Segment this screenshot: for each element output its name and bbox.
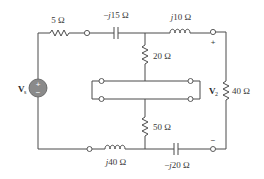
resistor-40-label: 40 Ω [232, 86, 250, 96]
top-branch: 5 Ω −j15 Ω j10 Ω [38, 10, 226, 39]
capacitor-j20-label: −j20 Ω [164, 160, 190, 170]
resistor-20-ohm-icon [142, 45, 148, 64]
terminal-node [99, 79, 104, 84]
terminal-node [211, 147, 216, 152]
inductor-j40-label: j40 Ω [105, 157, 127, 167]
v2-minus-sign: − [211, 136, 216, 145]
capacitor-j20-icon [174, 143, 178, 155]
terminal-node [210, 29, 215, 34]
inductor-j10-label: j10 Ω [170, 12, 192, 22]
terminal-node [188, 97, 193, 102]
resistor-50-ohm-icon [142, 117, 148, 136]
terminal-node [84, 30, 89, 35]
source-label-subscript: s [24, 89, 27, 95]
terminal-node [87, 147, 92, 152]
circuit-diagram: + − V s 5 Ω −j15 Ω j10 Ω [0, 0, 264, 179]
inductor-j40-icon [105, 145, 125, 149]
capacitor-j15-label: −j15 Ω [103, 10, 129, 20]
terminal-box [92, 79, 200, 102]
bottom-branch: j40 Ω −j20 Ω [38, 143, 226, 170]
terminal-node [99, 97, 104, 102]
resistor-40-ohm-icon [223, 81, 229, 100]
right-branch: 40 Ω + V 2 − [209, 32, 250, 149]
center-branch: 20 Ω 50 Ω [92, 33, 200, 149]
inductor-j10-icon [170, 29, 190, 33]
source-minus-sign: − [36, 88, 41, 97]
resistor-20-label: 20 Ω [153, 51, 171, 61]
v2-label-subscript: 2 [215, 91, 218, 97]
capacitor-j15-icon [114, 27, 118, 39]
terminal-node [188, 79, 193, 84]
v2-plus-sign: + [211, 38, 216, 47]
voltage-source: + − V s [18, 79, 47, 97]
resistor-5-ohm-icon [50, 30, 69, 36]
resistor-5-label: 5 Ω [51, 15, 65, 25]
resistor-50-label: 50 Ω [153, 122, 171, 132]
